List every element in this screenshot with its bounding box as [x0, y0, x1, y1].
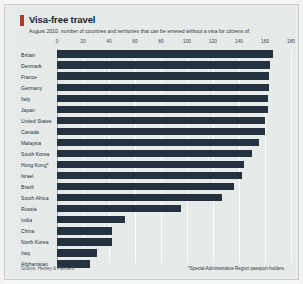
bar	[57, 95, 268, 102]
bar-row	[57, 182, 291, 193]
bar	[57, 172, 242, 179]
category-row: Malaysia	[21, 137, 57, 148]
bar-row	[57, 60, 291, 71]
category-row: Russia	[21, 204, 57, 215]
category-row: United States	[21, 115, 57, 126]
bar-row	[57, 159, 291, 170]
category-row: Iraq	[21, 248, 57, 259]
bar-row	[57, 137, 291, 148]
bar	[57, 128, 265, 135]
category-row: Germany	[21, 82, 57, 93]
category-row: China	[21, 226, 57, 237]
category-row: Canada	[21, 126, 57, 137]
bar-row	[57, 204, 291, 215]
bar	[57, 205, 181, 212]
x-tick-20: 20	[80, 39, 85, 44]
category-label: Malaysia	[21, 140, 41, 146]
category-label: Russia	[21, 206, 37, 212]
bar-series	[57, 49, 291, 263]
bar-row	[57, 93, 291, 104]
bar-row	[57, 126, 291, 137]
category-row: South Africa	[21, 193, 57, 204]
bar	[57, 216, 125, 223]
visa-free-travel-figure: Visa-free travel August 2010, number of …	[0, 0, 303, 284]
bar-row	[57, 115, 291, 126]
bar	[57, 117, 265, 124]
bar-row	[57, 237, 291, 248]
x-tick-60: 60	[132, 39, 137, 44]
bar	[57, 183, 234, 190]
category-label: South Korea	[21, 151, 49, 157]
category-row: France	[21, 71, 57, 82]
x-tick-140: 140	[235, 39, 243, 44]
category-label: Japan	[21, 107, 35, 113]
bar	[57, 61, 270, 68]
category-row: South Korea	[21, 148, 57, 159]
x-tick-0: 0	[56, 39, 59, 44]
category-label: Brazil	[21, 184, 34, 190]
category-row: North Korea	[21, 237, 57, 248]
bar-row	[57, 71, 291, 82]
category-axis-labels: BritainDenmarkFranceGermanyItalyJapanUni…	[21, 49, 57, 263]
bar-row	[57, 104, 291, 115]
category-label: Italy	[21, 96, 30, 102]
chart-panel: Visa-free travel August 2010, number of …	[9, 8, 296, 277]
bar	[57, 139, 259, 146]
bar	[57, 50, 273, 57]
x-tick-120: 120	[209, 39, 217, 44]
source-note: Source: Henley & Partners	[21, 266, 74, 271]
category-label: China	[21, 228, 34, 234]
category-label: Canada	[21, 129, 39, 135]
bar-row	[57, 193, 291, 204]
x-tick-80: 80	[158, 39, 163, 44]
scan-edge-bottom	[0, 280, 303, 284]
x-tick-40: 40	[106, 39, 111, 44]
category-label: Denmark	[21, 63, 42, 69]
chart-subtitle: August 2010, number of countries and ter…	[29, 28, 250, 35]
category-row: Israel	[21, 171, 57, 182]
scan-edge-right	[299, 0, 303, 284]
chart-title: Visa-free travel	[29, 14, 95, 25]
category-row: Brazil	[21, 182, 57, 193]
category-label: United States	[21, 118, 52, 124]
bar	[57, 150, 252, 157]
category-row: Hong Kong*	[21, 159, 57, 170]
bar	[57, 84, 269, 91]
bar	[57, 106, 268, 113]
category-label: India	[21, 217, 32, 223]
bar	[57, 72, 269, 79]
red-accent-mark	[20, 15, 24, 26]
bar-row	[57, 82, 291, 93]
bar	[57, 161, 244, 168]
bar-row	[57, 215, 291, 226]
bar	[57, 194, 222, 201]
category-label: North Korea	[21, 239, 48, 245]
category-row: Italy	[21, 93, 57, 104]
category-label: France	[21, 74, 37, 80]
footnote: *Special Administrative Region passport-…	[188, 266, 284, 271]
category-row: India	[21, 215, 57, 226]
plot-area: 020406080100120140160180	[57, 39, 291, 263]
category-label: Germany	[21, 85, 42, 91]
category-row: Denmark	[21, 60, 57, 71]
category-label: Britain	[21, 52, 35, 58]
title-row: Visa-free travel	[20, 14, 95, 26]
category-label: Israel	[21, 173, 33, 179]
x-tick-160: 160	[261, 39, 269, 44]
bar-row	[57, 171, 291, 182]
x-tick-100: 100	[183, 39, 191, 44]
bar	[57, 238, 112, 245]
x-tick-180: 180	[287, 39, 295, 44]
category-row: Britain	[21, 49, 57, 60]
gridline-180	[291, 49, 292, 263]
x-axis-tick-labels: 020406080100120140160180	[57, 39, 291, 49]
bar-row	[57, 49, 291, 60]
category-row: Japan	[21, 104, 57, 115]
bar-row	[57, 226, 291, 237]
bar-row	[57, 148, 291, 159]
bar-row	[57, 248, 291, 259]
category-label: South Africa	[21, 195, 48, 201]
category-label: Hong Kong*	[21, 162, 48, 168]
category-label: Iraq	[21, 250, 30, 256]
bar	[57, 227, 112, 234]
